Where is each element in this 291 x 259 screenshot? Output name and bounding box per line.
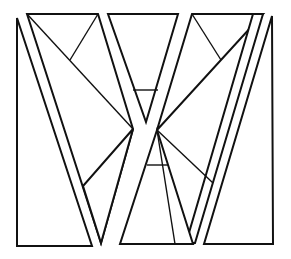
- geometric-letterform-figure: [0, 0, 291, 259]
- lower-center-triangle: [120, 130, 193, 244]
- figure-canvas: [0, 0, 291, 259]
